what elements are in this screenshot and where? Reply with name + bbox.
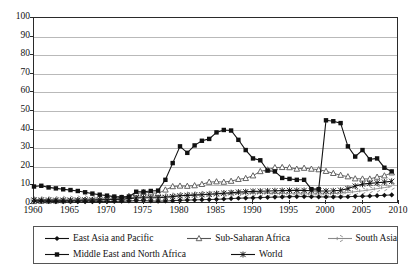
y-axis-tick-label: 30: [4, 142, 30, 152]
y-axis-tick-label: 50: [4, 105, 30, 115]
data-point-square: [127, 194, 131, 198]
data-point-diamond: [287, 194, 292, 199]
data-point-diamond: [316, 194, 321, 199]
legend-label: South Asia: [356, 233, 397, 243]
legend-label: World: [259, 249, 283, 259]
legend-symbol-star-icon: [327, 233, 353, 244]
data-point-square: [375, 156, 379, 160]
data-point-square: [317, 187, 321, 191]
data-point-square: [302, 178, 306, 182]
legend-symbol-diamond-icon: [44, 233, 70, 244]
data-point-square: [76, 189, 80, 193]
x-axis-tick-mark: [398, 200, 399, 204]
x-axis-tick-label: 1980: [161, 204, 197, 216]
data-point-diamond: [331, 194, 336, 199]
data-point-square: [222, 128, 226, 132]
data-point-square: [90, 191, 94, 195]
data-point-square: [119, 195, 123, 199]
legend-symbol-triangle-icon: [186, 233, 212, 244]
x-axis-tick-label: 1975: [125, 204, 161, 216]
data-point-square: [382, 166, 386, 170]
data-point-diamond: [221, 196, 226, 201]
data-point-diamond: [302, 194, 307, 199]
x-axis-tick-mark: [33, 200, 34, 204]
data-point-square: [360, 148, 364, 152]
data-point-square: [368, 157, 372, 161]
legend-item[interactable]: South Asia: [327, 233, 397, 244]
data-point-square: [178, 144, 182, 148]
data-point-diamond: [360, 194, 365, 199]
data-point-square: [39, 184, 43, 188]
data-point-square: [265, 168, 269, 172]
y-axis-tick-label: 90: [4, 31, 30, 41]
legend-item[interactable]: East Asia and Pacific: [44, 233, 186, 244]
data-point-diamond: [280, 194, 285, 199]
data-point-square: [346, 144, 350, 148]
y-axis-tick-label: 70: [4, 68, 30, 78]
x-axis-tick-mark: [179, 200, 180, 204]
data-point-square: [244, 148, 248, 152]
legend-label: East Asia and Pacific: [73, 233, 153, 243]
chart-root: 0102030405060708090100 19601965197019751…: [0, 0, 420, 270]
data-point-square: [200, 139, 204, 143]
data-point-triangle: [279, 164, 285, 169]
data-point-square: [54, 186, 58, 190]
y-axis-tick-label: 20: [4, 161, 30, 171]
x-axis-tick-label: 2005: [344, 204, 380, 216]
data-point-diamond: [323, 194, 328, 199]
x-axis-tick-mark: [70, 200, 71, 204]
legend-item[interactable]: World: [230, 249, 283, 260]
x-axis-tick-mark: [362, 200, 363, 204]
x-axis-tick-label: 2010: [380, 204, 416, 216]
data-point-diamond: [353, 194, 358, 199]
data-point-diamond: [382, 193, 387, 198]
legend-item[interactable]: Sub-Saharan Africa: [186, 233, 326, 244]
data-point-square: [61, 187, 65, 191]
x-axis: 1960196519701975198019851990199520002005…: [0, 204, 420, 220]
y-axis-tick-label: 40: [4, 124, 30, 134]
data-point-diamond: [199, 197, 204, 202]
data-point-square: [287, 177, 291, 181]
data-point-diamond: [54, 235, 59, 240]
x-axis-tick-mark: [143, 200, 144, 204]
y-axis: 0102030405060708090100: [0, 0, 30, 203]
data-point-diamond: [229, 196, 234, 201]
legend-symbol-square-icon: [44, 249, 70, 260]
data-point-diamond: [309, 194, 314, 199]
data-point-square: [258, 158, 262, 162]
x-axis-tick-label: 1965: [52, 204, 88, 216]
x-axis-tick-mark: [216, 200, 217, 204]
data-point-square: [280, 176, 284, 180]
data-point-square: [55, 252, 59, 256]
x-axis-tick-label: 2000: [307, 204, 343, 216]
legend-item[interactable]: Middle East and North Africa: [44, 249, 230, 260]
series-layer: [34, 18, 399, 204]
x-axis-tick-mark: [325, 200, 326, 204]
y-axis-tick-label: 10: [4, 179, 30, 189]
data-point-square: [295, 178, 299, 182]
data-point-square: [112, 194, 116, 198]
data-point-square: [83, 190, 87, 194]
data-point-square: [309, 187, 313, 191]
legend-label: Sub-Saharan Africa: [215, 233, 290, 243]
data-point-diamond: [294, 194, 299, 199]
data-point-square: [214, 130, 218, 134]
data-point-square: [68, 188, 72, 192]
data-point-square: [353, 154, 357, 158]
data-point-square: [105, 193, 109, 197]
data-point-square: [229, 128, 233, 132]
series-line: [34, 167, 392, 201]
x-axis-tick-mark: [106, 200, 107, 204]
data-point-diamond: [192, 197, 197, 202]
x-axis-tick-label: 1995: [271, 204, 307, 216]
data-point-diamond: [207, 197, 212, 202]
data-point-triangle: [177, 183, 183, 188]
data-point-square: [324, 118, 328, 122]
data-point-square: [141, 190, 145, 194]
data-point-diamond: [243, 195, 248, 200]
series-line: [34, 120, 392, 197]
data-point-diamond: [185, 197, 190, 202]
legend-row-1: East Asia and PacificSub-Saharan AfricaS…: [34, 230, 397, 246]
y-axis-tick-label: 80: [4, 49, 30, 59]
data-point-square: [236, 138, 240, 142]
